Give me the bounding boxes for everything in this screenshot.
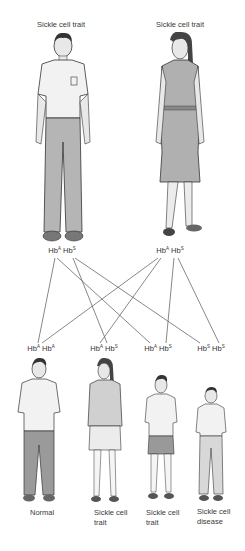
- child3-genotype: HbA HbS: [144, 344, 171, 353]
- child2-outcome: Sickle cell trait: [94, 508, 127, 528]
- line-mother-a-child2: [100, 258, 161, 343]
- line-mother-s-child4: [178, 258, 219, 343]
- child2-genotype: HbA HbS: [90, 344, 117, 353]
- line-father-s-child4: [75, 258, 200, 343]
- child2-figure: [84, 358, 126, 506]
- child1-genotype: HbA HbA: [27, 344, 54, 353]
- line-mother-a-child1: [42, 258, 158, 343]
- line-father-s-child2: [73, 258, 107, 343]
- child4-outcome: Sickle cell disease: [197, 507, 230, 527]
- child3-figure: [143, 374, 179, 506]
- child1-outcome: Normal: [30, 508, 54, 518]
- line-father-a-child1: [38, 258, 55, 343]
- child4-genotype: HbS HbS: [197, 344, 224, 353]
- child1-figure: [14, 357, 64, 507]
- line-father-a-child3: [57, 258, 150, 343]
- child3-outcome: Sickle cell trait: [146, 508, 179, 528]
- child4-figure: [194, 386, 228, 506]
- line-mother-s-child3: [166, 258, 174, 343]
